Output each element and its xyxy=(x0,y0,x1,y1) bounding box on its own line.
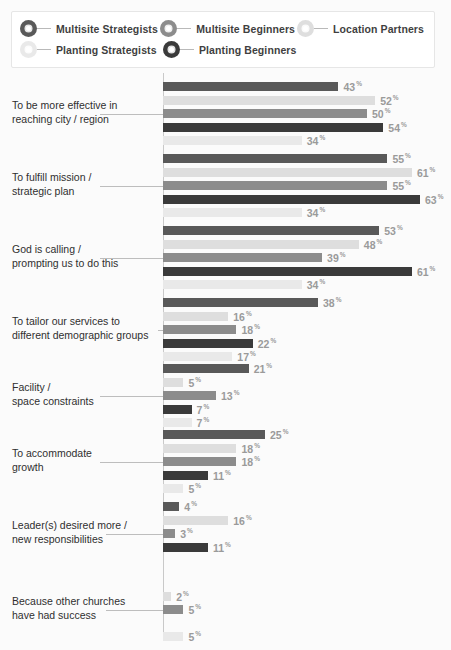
bar-planting-beginners[interactable] xyxy=(163,405,192,414)
bar-planting-beginners[interactable] xyxy=(163,267,412,276)
bar-multisite-beginners[interactable] xyxy=(163,181,387,190)
bar-planting-strategists[interactable] xyxy=(163,484,183,493)
table-row: 3% xyxy=(163,529,451,538)
percent-sign: % xyxy=(234,389,240,396)
bar-value-label: 21% xyxy=(254,362,272,375)
table-row: 25% xyxy=(163,430,451,439)
bar-multisite-beginners[interactable] xyxy=(163,529,175,538)
bar-location-partners[interactable] xyxy=(163,96,375,105)
legend-connector-line xyxy=(314,28,328,29)
category-label: Because other churcheshave had success xyxy=(12,594,157,622)
table-row: 34% xyxy=(163,280,451,289)
bar-location-partners[interactable] xyxy=(163,378,183,387)
legend-marker-circle xyxy=(297,20,314,37)
percent-sign: % xyxy=(340,251,346,258)
table-row: 21% xyxy=(163,364,451,373)
legend-item-planting-strategists[interactable]: Planting Strategists xyxy=(20,41,161,58)
bar-value-label: 61% xyxy=(417,166,435,179)
bar-planting-strategists[interactable] xyxy=(163,352,232,361)
table-row: 18% xyxy=(163,457,451,466)
bar-value-number: 13 xyxy=(221,390,233,402)
bar-planting-strategists[interactable] xyxy=(163,280,302,289)
bar-multisite-strategists[interactable] xyxy=(163,502,179,511)
legend-connector-line xyxy=(180,49,194,50)
bar-planting-beginners[interactable] xyxy=(163,123,383,132)
bar-multisite-beginners[interactable] xyxy=(163,253,322,262)
bar-value-label: 3% xyxy=(180,527,193,540)
legend-connector-line xyxy=(37,28,51,29)
category-label-line1: To fulfill mission / xyxy=(12,170,157,184)
chart-legend: Multisite StrategistsMultisite Beginners… xyxy=(11,11,435,68)
bar-value-number: 61 xyxy=(417,166,429,178)
percent-sign: % xyxy=(336,296,342,303)
label-leader-line xyxy=(106,534,163,535)
category-label: To fulfill mission /strategic plan xyxy=(12,170,157,198)
legend-item-location-partners[interactable]: Location Partners xyxy=(297,20,424,37)
bar-value-number: 18 xyxy=(241,324,253,336)
bar-value-number: 18 xyxy=(241,456,253,468)
bar-multisite-beginners[interactable] xyxy=(163,325,236,334)
percent-sign: % xyxy=(270,337,276,344)
bar-multisite-strategists[interactable] xyxy=(163,154,387,163)
percent-sign: % xyxy=(203,403,209,410)
percent-sign: % xyxy=(195,630,201,637)
table-row: 11% xyxy=(163,543,451,552)
percent-sign: % xyxy=(430,265,436,272)
bar-value-label: 2% xyxy=(176,590,189,603)
bar-value-number: 22 xyxy=(258,337,270,349)
bar-value-label: 11% xyxy=(213,541,231,554)
bar-multisite-beginners[interactable] xyxy=(163,391,216,400)
bar-location-partners[interactable] xyxy=(163,516,228,525)
bar-location-partners[interactable] xyxy=(163,592,171,601)
percent-sign: % xyxy=(246,310,252,317)
bar-value-label: 34% xyxy=(307,278,325,291)
bar-value-label: 16% xyxy=(233,514,251,527)
bar-value-label: 4% xyxy=(184,500,197,513)
bar-value-label: 13% xyxy=(221,389,239,402)
bar-planting-strategists[interactable] xyxy=(163,632,183,641)
percent-sign: % xyxy=(319,134,325,141)
bar-multisite-beginners[interactable] xyxy=(163,605,183,614)
bar-multisite-beginners[interactable] xyxy=(163,109,367,118)
bar-location-partners[interactable] xyxy=(163,312,228,321)
bar-multisite-strategists[interactable] xyxy=(163,226,379,235)
legend-item-planting-beginners[interactable]: Planting Beginners xyxy=(163,41,300,58)
table-row: 5% xyxy=(163,605,451,614)
bar-location-partners[interactable] xyxy=(163,168,412,177)
percent-sign: % xyxy=(283,428,289,435)
legend-marker-circle xyxy=(163,41,180,58)
bar-value-label: 38% xyxy=(323,296,341,309)
bar-planting-strategists[interactable] xyxy=(163,208,302,217)
legend-item-label: Location Partners xyxy=(333,23,424,35)
bar-multisite-strategists[interactable] xyxy=(163,82,338,91)
bar-value-number: 34 xyxy=(307,279,319,291)
bar-planting-beginners[interactable] xyxy=(163,339,253,348)
bar-planting-beginners[interactable] xyxy=(163,195,420,204)
bar-location-partners[interactable] xyxy=(163,240,359,249)
bar-multisite-beginners[interactable] xyxy=(163,457,236,466)
legend-item-multisite-strategists[interactable]: Multisite Strategists xyxy=(20,20,158,37)
bar-location-partners[interactable] xyxy=(163,444,236,453)
bar-planting-beginners[interactable] xyxy=(163,471,208,480)
legend-item-multisite-beginners[interactable]: Multisite Beginners xyxy=(160,20,295,37)
percent-sign: % xyxy=(250,350,256,357)
bar-value-label: 50% xyxy=(372,107,390,120)
bar-multisite-strategists[interactable] xyxy=(163,430,265,439)
table-row: 22% xyxy=(163,339,451,348)
table-row: 5% xyxy=(163,632,451,641)
bar-planting-strategists[interactable] xyxy=(163,136,302,145)
bar-multisite-strategists[interactable] xyxy=(163,364,249,373)
category-label: Facility /space constraints xyxy=(12,380,157,408)
bar-multisite-strategists[interactable] xyxy=(163,298,318,307)
bar-planting-strategists[interactable] xyxy=(163,418,192,427)
table-row: 48% xyxy=(163,240,451,249)
percent-sign: % xyxy=(401,121,407,128)
table-row: 63% xyxy=(163,195,451,204)
legend-marker-circle xyxy=(160,20,177,37)
percent-sign: % xyxy=(254,455,260,462)
bar-value-number: 16 xyxy=(233,514,245,526)
bar-value-label: 61% xyxy=(417,265,435,278)
bar-value-number: 39 xyxy=(327,252,339,264)
bar-planting-beginners[interactable] xyxy=(163,543,208,552)
bar-value-label: 18% xyxy=(241,455,259,468)
